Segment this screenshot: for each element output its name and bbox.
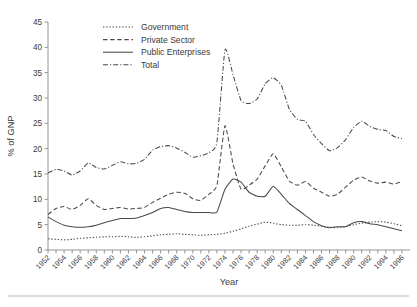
x-tick-label: 1982 <box>275 253 293 271</box>
y-axis-tick-labels: 051015202530354045 <box>33 18 43 255</box>
series-line-private-sector <box>48 126 402 215</box>
y-axis: 051015202530354045 % of GNP <box>6 18 48 255</box>
x-tick-label: 1974 <box>211 253 229 271</box>
y-tick-label: 0 <box>37 246 42 255</box>
chart-legend: GovernmentPrivate SectorPublic Enterpris… <box>103 22 210 70</box>
series-line-public-enterprises <box>48 179 402 231</box>
y-tick-label: 35 <box>33 69 43 78</box>
x-axis-title: Year <box>220 277 239 287</box>
x-tick-label: 1992 <box>356 253 374 271</box>
x-tick-label: 1986 <box>307 253 325 271</box>
x-tick-label: 1960 <box>98 253 116 271</box>
y-tick-label: 40 <box>33 43 43 52</box>
x-tick-label: 1990 <box>340 253 358 271</box>
x-tick-label: 1952 <box>34 253 52 271</box>
x-tick-label: 1980 <box>259 253 277 271</box>
chart-figure: 051015202530354045 % of GNP 195219541956… <box>0 0 417 307</box>
x-tick-label: 1956 <box>66 253 84 271</box>
x-tick-label: 1966 <box>147 253 165 271</box>
y-tick-label: 15 <box>33 170 43 179</box>
x-tick-label: 1988 <box>324 253 342 271</box>
y-axis-title: % of GNP <box>6 116 16 157</box>
x-tick-label: 1964 <box>130 253 148 271</box>
y-tick-label: 45 <box>33 18 43 27</box>
x-axis-ticks <box>48 250 402 254</box>
x-tick-label: 1958 <box>82 253 100 271</box>
x-tick-label: 1954 <box>50 253 68 271</box>
x-tick-label: 1994 <box>372 253 390 271</box>
y-tick-label: 30 <box>33 94 43 103</box>
y-tick-label: 5 <box>37 221 42 230</box>
y-tick-label: 10 <box>33 195 43 204</box>
x-tick-label: 1976 <box>227 253 245 271</box>
legend-label-private-sector: Private Sector <box>141 35 195 45</box>
x-axis-tick-labels: 1952195419561958196019621964196619681970… <box>34 253 406 271</box>
y-tick-label: 20 <box>33 145 43 154</box>
legend-label-government: Government <box>141 22 189 32</box>
x-tick-label: 1968 <box>163 253 181 271</box>
x-tick-label: 1984 <box>291 253 309 271</box>
chart-series-group <box>48 49 402 240</box>
x-tick-label: 1972 <box>195 253 213 271</box>
y-tick-label: 25 <box>33 119 43 128</box>
x-tick-label: 1962 <box>114 253 132 271</box>
legend-label-public-enterprises: Public Enterprises <box>141 47 210 57</box>
chart-svg: 051015202530354045 % of GNP 195219541956… <box>0 0 417 307</box>
series-line-government <box>48 222 402 240</box>
y-axis-ticks <box>45 22 49 250</box>
x-tick-label: 1978 <box>243 253 261 271</box>
x-tick-label: 1996 <box>388 253 406 271</box>
legend-label-total: Total <box>141 60 159 70</box>
x-tick-label: 1970 <box>179 253 197 271</box>
series-line-total <box>48 49 402 175</box>
x-axis: 1952195419561958196019621964196619681970… <box>34 250 410 287</box>
